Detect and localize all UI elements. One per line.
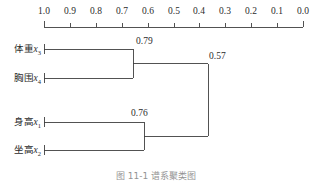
figure-caption: 图 11-1 谱系聚类图 [0,171,312,182]
axis-label-0-2: 0.2 [238,6,264,16]
leaf-label-x1-index: 1 [38,122,41,129]
axis-label-0-9: 0.9 [57,6,83,16]
axis-label-0-3: 0.3 [212,6,238,16]
leaf-label-x1-text: 身高 [14,116,34,127]
axis-label-0-5: 0.5 [161,6,187,16]
axis-label-0-7: 0.7 [109,6,135,16]
link-merge-bottom [44,122,144,150]
leaf-label-x2: 坐高x2 [0,144,41,159]
dendrogram-canvas [0,0,312,183]
leaf-label-x3-index: 3 [38,49,41,56]
leaf-label-x2-text: 坐高 [14,144,34,155]
link-merge-top [44,49,133,78]
leaf-label-x3-text: 体重 [14,43,34,54]
leaf-label-x2-index: 2 [38,150,41,157]
leaf-label-x3: 体重x3 [0,43,41,58]
leaf-label-x4-index: 4 [38,78,41,85]
axis-label-0-4: 0.4 [186,6,212,16]
axis-group [44,21,303,27]
axis-label-0-8: 0.8 [83,6,109,16]
leaf-label-x4: 胸围x4 [0,72,41,87]
dendrogram-links-group [44,49,208,150]
merge-label-bottom: 0.76 [131,108,148,118]
axis-label-0-1: 0.1 [264,6,290,16]
axis-label-0-0: 0.0 [290,6,312,16]
dendrogram-figure: 1.0 0.9 0.8 0.7 0.6 0.5 0.4 0.3 0.2 0.1 … [0,0,312,183]
axis-label-1-0: 1.0 [31,6,57,16]
merge-label-root: 0.57 [209,51,226,61]
merge-label-top: 0.79 [136,36,153,46]
leaf-label-x1: 身高x1 [0,116,41,131]
axis-label-0-6: 0.6 [135,6,161,16]
leaf-label-x4-text: 胸围 [14,72,34,83]
